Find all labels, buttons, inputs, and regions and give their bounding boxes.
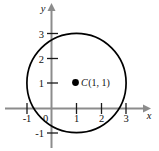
x-tick-label--1: -1 <box>23 113 32 124</box>
x-tick-label-2: 2 <box>99 113 104 124</box>
y-tick-label-1: 1 <box>39 78 44 89</box>
y-tick-label-2: 2 <box>39 54 44 65</box>
circle-graph-figure: -1 0 1 2 3 -1 1 2 3 x y C(1, 1) <box>0 0 159 151</box>
center-point-label: C(1, 1) <box>81 77 110 89</box>
y-tick-label--1: -1 <box>35 128 44 139</box>
y-tick-label-3: 3 <box>39 29 44 40</box>
x-tick-label-1: 1 <box>74 113 79 124</box>
center-point-label-name: C <box>81 77 88 88</box>
center-point-label-coords: (1, 1) <box>88 77 110 89</box>
plot-area: -1 0 1 2 3 -1 1 2 3 x y C(1, 1) <box>0 0 159 151</box>
y-axis-label: y <box>40 3 46 14</box>
x-tick-label-3: 3 <box>123 113 128 124</box>
y-axis-arrow-icon <box>48 3 56 11</box>
x-tick-label-0: 0 <box>43 113 48 124</box>
x-axis-label: x <box>146 110 152 121</box>
center-point-marker <box>72 79 79 86</box>
